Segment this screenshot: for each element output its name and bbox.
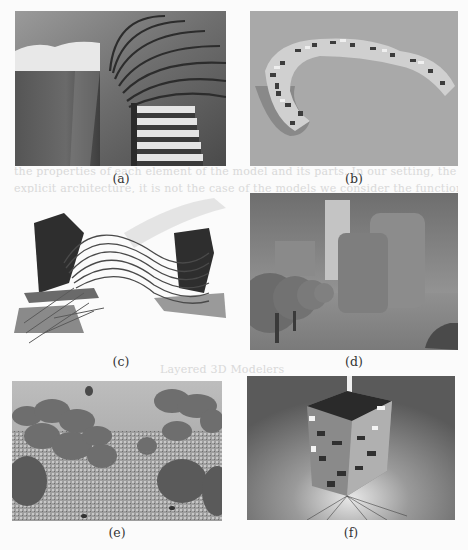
figure-panel-e (12, 381, 222, 521)
spiral-staircase-image (15, 11, 226, 166)
bleed-through-text-line: the properties of each element of the mo… (14, 166, 458, 178)
caption-c: (c) (101, 354, 141, 369)
caption-e: (e) (97, 525, 137, 540)
twisted-structure-image (14, 193, 226, 350)
voxel-arc-image (250, 11, 458, 166)
figure-panel-b (250, 11, 458, 166)
figure-panel-a (15, 11, 226, 166)
mushroom-field-image (12, 381, 222, 521)
caption-f: (f) (331, 525, 371, 540)
caption-b: (b) (334, 171, 374, 186)
figure-panel-d (250, 193, 458, 350)
foggy-cityscape-image (250, 193, 458, 350)
bleed-through-heading: Layered 3D Modelers (160, 364, 458, 376)
figure-panel-c (14, 193, 226, 350)
caption-d: (d) (334, 354, 374, 369)
figure-panel-f (247, 376, 455, 520)
exploding-cube-tower-image (247, 376, 455, 520)
caption-a: (a) (101, 171, 141, 186)
